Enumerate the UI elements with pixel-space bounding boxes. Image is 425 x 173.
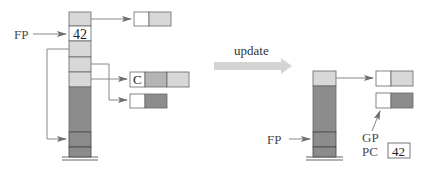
stack-cell-5 <box>69 72 91 87</box>
stack-cell-top <box>313 71 336 86</box>
dynamic-link-arrow <box>47 49 69 139</box>
stack-cell-dark-bottom <box>69 147 91 157</box>
gp-arrow <box>372 111 380 131</box>
stack-cell-4 <box>69 57 91 72</box>
record-c-label: C <box>133 73 142 86</box>
stack-cell-dark-large <box>69 87 91 132</box>
fp-label: FP <box>14 28 28 41</box>
pointer-arrow-record-3 <box>91 64 127 100</box>
record-1-after <box>376 71 413 86</box>
record-1 <box>134 12 171 26</box>
stack-cell-3 <box>69 41 91 57</box>
stack-cell-dark-frame <box>313 132 336 147</box>
stack-cell-dark-frame <box>69 132 91 147</box>
fp-label-after: FP <box>267 133 281 146</box>
pc-label: PC <box>362 145 378 158</box>
gp-label: GP <box>362 131 379 144</box>
update-label: update <box>234 44 269 57</box>
stack-after <box>306 71 343 160</box>
update-arrow-icon <box>214 58 292 74</box>
record-3-after <box>376 93 413 108</box>
pc-value: 42 <box>392 145 405 158</box>
stack-cell-dark-large <box>313 86 336 132</box>
stack-value-42: 42 <box>73 28 87 42</box>
stack-cell-top <box>69 12 91 26</box>
record-3 <box>130 94 167 108</box>
stack-cell-dark-bottom <box>313 147 336 157</box>
